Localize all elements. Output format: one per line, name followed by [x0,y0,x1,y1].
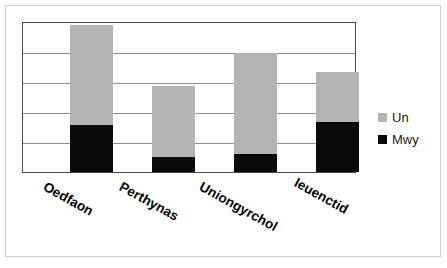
bars-layer [23,23,355,172]
bar-segment-un[interactable] [234,53,277,155]
legend-item-mwy[interactable]: Mwy [378,130,440,149]
x-axis-label-oedfaon: Oedfaon [41,179,96,219]
bar-uniongyrchol[interactable] [234,53,277,172]
bar-segment-mwy[interactable] [316,122,359,172]
bar-perthynas[interactable] [152,86,195,172]
legend-label-un: Un [392,111,409,124]
bar-oedfaon[interactable] [70,25,113,172]
chart-legend: Un Mwy [378,108,440,152]
legend-label-mwy: Mwy [392,133,419,146]
x-axis-label-perthynas: Perthynas [117,179,181,224]
bar-segment-mwy[interactable] [70,125,113,172]
bar-ieuenctid[interactable] [316,72,359,172]
legend-swatch-icon-mwy [378,135,387,144]
bar-segment-mwy[interactable] [234,154,277,172]
bar-segment-mwy[interactable] [152,157,195,172]
bar-segment-un[interactable] [152,86,195,157]
x-axis-labels: Oedfaon Perthynas Uniongyrchol Ieuenctid [22,173,356,251]
x-axis-label-ieuenctid: Ieuenctid [292,175,351,217]
legend-swatch-icon-un [378,113,387,122]
bar-segment-un[interactable] [316,72,359,121]
chart-figure: Oedfaon Perthynas Uniongyrchol Ieuenctid… [0,0,447,268]
x-axis-label-uniongyrchol: Uniongyrchol [197,179,280,234]
bar-segment-un[interactable] [70,25,113,125]
plot-area [22,22,356,173]
legend-item-un[interactable]: Un [378,108,440,127]
